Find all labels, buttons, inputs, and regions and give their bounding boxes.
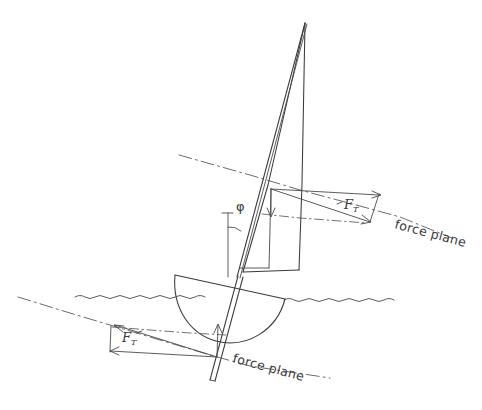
sail-force-label: FT	[337, 197, 359, 214]
sail-force-subscript: T	[353, 205, 359, 214]
figure-root: φ FT FT force plane force plane	[0, 0, 482, 410]
sailboat-force-diagram: φ FT FT force plane force plane	[0, 0, 482, 410]
heel-angle-mark	[222, 213, 241, 277]
waterline	[75, 296, 394, 302]
heel-angle-label: φ	[236, 199, 245, 214]
force-plane-label-lower: force plane	[231, 350, 306, 383]
force-plane-label-upper: force plane	[393, 216, 468, 249]
keel-force-subscript: T	[131, 338, 137, 347]
svg-text:FT: FT	[343, 197, 359, 214]
